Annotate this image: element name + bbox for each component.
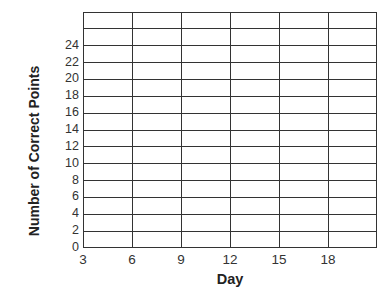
- grid-line-horizontal: [83, 146, 377, 147]
- grid-line-horizontal: [83, 28, 377, 29]
- y-tick-label: 20: [55, 71, 79, 85]
- y-tick-label: 4: [55, 206, 79, 220]
- grid-line-horizontal: [83, 96, 377, 97]
- y-tick-label: 18: [55, 88, 79, 102]
- y-tick-label: 10: [55, 156, 79, 170]
- grid-line-horizontal: [83, 62, 377, 63]
- x-axis-label: Day: [200, 271, 260, 287]
- y-tick-label: 16: [55, 105, 79, 119]
- grid-line-horizontal: [83, 79, 377, 80]
- grid-line-horizontal: [83, 214, 377, 215]
- grid-line-horizontal: [83, 130, 377, 131]
- grid-line-horizontal: [83, 45, 377, 46]
- grid-line-horizontal: [83, 163, 377, 164]
- y-axis-label: Number of Correct Points: [26, 51, 42, 251]
- y-tick-label: 24: [55, 38, 79, 52]
- grid-line-horizontal: [83, 113, 377, 114]
- y-tick-label: 6: [55, 189, 79, 203]
- x-tick-label: 12: [215, 252, 245, 268]
- y-tick-label: 12: [55, 139, 79, 153]
- y-tick-label: 14: [55, 122, 79, 136]
- x-tick-label: 9: [166, 252, 196, 268]
- y-tick-label: 8: [55, 173, 79, 187]
- x-tick-label: 3: [68, 252, 98, 268]
- x-tick-label: 6: [117, 252, 147, 268]
- blank-graph-chart: Number of Correct Points Day 02468101214…: [0, 0, 386, 300]
- y-tick-label: 22: [55, 55, 79, 69]
- x-tick-label: 15: [264, 252, 294, 268]
- grid-line-horizontal: [83, 197, 377, 198]
- grid-line-horizontal: [83, 231, 377, 232]
- grid-line-horizontal: [83, 180, 377, 181]
- x-tick-label: 18: [313, 252, 343, 268]
- y-tick-label: 2: [55, 223, 79, 237]
